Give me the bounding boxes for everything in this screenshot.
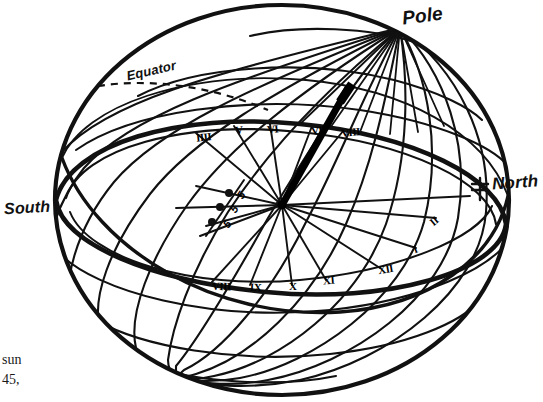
center-hub bbox=[278, 201, 287, 210]
hour-numeral: X bbox=[289, 280, 296, 292]
hour-numeral: IX bbox=[250, 281, 262, 293]
hour-numeral: V bbox=[234, 124, 243, 137]
tick-dot bbox=[225, 189, 233, 197]
label-north: North bbox=[491, 171, 539, 194]
label-south: South bbox=[4, 198, 51, 218]
hour-numeral: IIII bbox=[195, 130, 211, 144]
hour-numeral: VII bbox=[310, 123, 326, 137]
hour-numeral: VI bbox=[266, 122, 278, 135]
hour-numeral: XII bbox=[377, 262, 394, 276]
hour-numeral: XI bbox=[323, 274, 335, 287]
hour-numeral: VIII bbox=[212, 280, 231, 293]
hour-numeral: VIII bbox=[340, 125, 360, 139]
sundial-sphere-figure bbox=[0, 0, 543, 402]
caption-line-2: 45, bbox=[2, 372, 20, 388]
caption-line-1: sun bbox=[2, 352, 21, 368]
globe-group bbox=[32, 5, 510, 395]
